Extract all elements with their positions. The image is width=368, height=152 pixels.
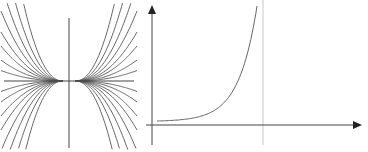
right-chart bbox=[0, 0, 368, 152]
exponential-curve bbox=[157, 6, 257, 121]
x-axis-arrow-icon bbox=[353, 121, 362, 129]
y-axis-arrow-icon bbox=[148, 5, 156, 14]
